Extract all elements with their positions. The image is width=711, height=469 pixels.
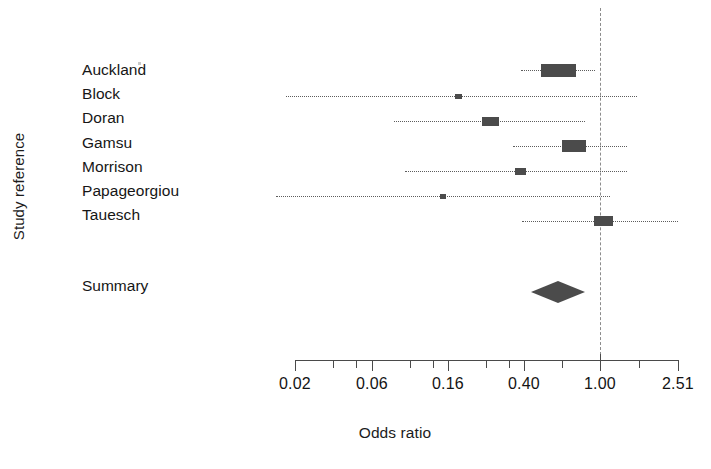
x-axis-tick-minor-8 [639, 360, 640, 368]
x-axis-tick-major-1 [295, 360, 296, 371]
x-axis-tick-minor-3 [410, 360, 411, 368]
x-axis-tick-minor-1 [333, 360, 334, 368]
x-axis-tick-major-6 [678, 360, 679, 371]
study-label-tauesch: Tauesch [82, 206, 140, 224]
forest-plot: Study reference Auckland Block Doran Gam… [0, 0, 711, 469]
study-label-gamsu: Gamsu [82, 134, 132, 152]
summary-label: Summary [82, 277, 148, 295]
x-axis-tick-label-4: 1.00 [570, 375, 630, 393]
x-axis-tick-label-3: 0.40 [494, 375, 554, 393]
x-axis-tick-label-1: 0.06 [342, 375, 402, 393]
estimate-marker-papageorgiou [440, 194, 446, 199]
x-axis-tick-major-4 [524, 360, 525, 371]
x-axis-tick-minor-6 [509, 360, 510, 368]
reference-line-at-one [600, 8, 601, 360]
summary-diamond [529, 279, 587, 305]
estimate-marker-morrison [515, 168, 526, 175]
x-axis-tick-label-2: 0.16 [418, 375, 478, 393]
study-label-block: Block [82, 85, 120, 103]
x-axis-tick-major-5 [600, 354, 601, 371]
x-axis-tick-major-2 [372, 360, 373, 371]
x-axis-title: Odds ratio [330, 424, 460, 442]
x-axis-tick-major-3 [448, 360, 449, 371]
x-axis-tick-minor-5 [486, 360, 487, 368]
x-axis-tick-minor-7 [562, 360, 563, 368]
study-label-papageorgiou: Papageorgiou [82, 182, 179, 200]
estimate-marker-gamsu [562, 140, 586, 152]
estimate-marker-block [455, 94, 462, 99]
estimate-marker-auckland [541, 64, 576, 77]
x-axis-tick-minor-4 [433, 360, 434, 368]
x-axis-tick-minor-2 [356, 360, 357, 368]
estimate-marker-tauesch [594, 216, 613, 226]
estimate-marker-doran [482, 117, 499, 126]
study-label-auckland: Auckland [82, 61, 146, 79]
study-label-morrison: Morrison [82, 158, 143, 176]
x-axis-tick-label-5: 2.51 [648, 375, 708, 393]
y-axis-title: Study reference [10, 107, 27, 267]
study-label-doran: Doran [82, 109, 124, 127]
x-axis-tick-label-0: 0.02 [265, 375, 325, 393]
